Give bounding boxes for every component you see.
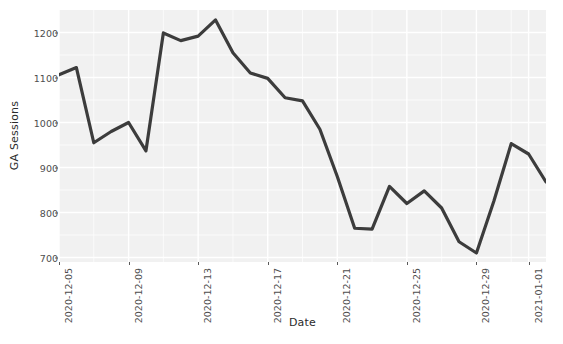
y-tick-label: 800 [10, 207, 58, 218]
x-axis-title: Date [60, 316, 545, 329]
x-tick-label: 2020-12-25 [411, 268, 422, 323]
y-tick-mark [55, 212, 58, 213]
plot-svg [59, 10, 546, 262]
x-tick-mark [529, 262, 530, 265]
y-tick-mark [55, 167, 58, 168]
x-tick-mark [129, 262, 130, 265]
x-tick-label: 2020-12-09 [133, 268, 144, 323]
y-tick-label: 1100 [10, 72, 58, 83]
gridlines-minor [59, 10, 546, 262]
x-tick-mark [59, 262, 60, 265]
x-tick-mark [337, 262, 338, 265]
x-tick-mark [268, 262, 269, 265]
x-tick-label: 2020-12-13 [202, 268, 213, 323]
y-tick-mark [55, 257, 58, 258]
y-tick-label: 1000 [10, 117, 58, 128]
x-axis-title-label: Date [289, 316, 316, 329]
y-tick-label: 900 [10, 162, 58, 173]
x-axis-ticks: 2020-12-052020-12-092020-12-132020-12-17… [0, 262, 563, 322]
y-tick-mark [55, 122, 58, 123]
x-tick-label: 2020-12-05 [63, 268, 74, 323]
y-tick-mark [55, 32, 58, 33]
x-tick-mark [198, 262, 199, 265]
x-tick-label: 2020-12-29 [480, 268, 491, 323]
y-tick-mark [55, 77, 58, 78]
y-axis-ticks: 700800900100011001200 [0, 0, 58, 271]
x-tick-mark [407, 262, 408, 265]
plot-panel [59, 10, 546, 262]
y-tick-label: 1200 [10, 27, 58, 38]
chart-container: GA Sessions 700800900100011001200 2020-1… [0, 0, 563, 344]
x-tick-label: 2020-12-21 [341, 268, 352, 323]
x-tick-label: 2020-12-17 [272, 268, 283, 323]
x-tick-label: 2021-01-01 [533, 268, 544, 323]
x-tick-mark [476, 262, 477, 265]
